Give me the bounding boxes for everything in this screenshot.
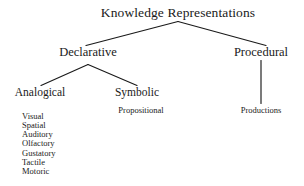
knowledge-representations-diagram: Knowledge Representations Declarative Pr…	[0, 0, 304, 186]
list-item: Motoric	[22, 167, 56, 176]
edge-root-to-declarative	[86, 22, 178, 46]
node-knowledge-representations: Knowledge Representations	[101, 6, 255, 20]
edge-declarative-to-symbolic	[88, 65, 137, 86]
node-productions: Productions	[241, 106, 282, 115]
edge-declarative-to-analogical	[41, 65, 88, 86]
edge-root-to-procedural	[178, 22, 266, 46]
analogical-modality-list: Visual Spatial Auditory Olfactory Gustat…	[22, 112, 56, 176]
node-symbolic: Symbolic	[115, 87, 159, 99]
node-propositional: Propositional	[118, 106, 163, 115]
node-declarative: Declarative	[59, 46, 117, 59]
node-analogical: Analogical	[15, 87, 65, 99]
node-procedural: Procedural	[234, 46, 288, 59]
